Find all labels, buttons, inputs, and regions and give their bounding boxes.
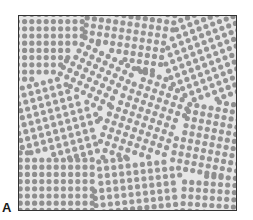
particle (182, 187, 187, 192)
particle (70, 110, 75, 115)
particle (35, 148, 40, 153)
particle (211, 135, 216, 140)
particle-lattice (19, 16, 237, 211)
particle (226, 131, 231, 136)
particle (190, 29, 195, 34)
particle (22, 69, 27, 74)
particle (41, 140, 46, 145)
particle (22, 48, 27, 53)
particle (69, 133, 74, 138)
particle (155, 150, 160, 155)
particle (172, 188, 177, 193)
particle (195, 42, 200, 47)
particle (73, 55, 78, 60)
particle (93, 48, 98, 53)
particle (122, 70, 127, 75)
particle (107, 194, 112, 199)
particle (139, 107, 144, 112)
particle (143, 138, 148, 143)
particle (177, 158, 182, 163)
particle (110, 41, 115, 46)
particle (225, 182, 230, 187)
particle (39, 186, 44, 191)
particle (121, 193, 126, 198)
particle (72, 19, 77, 24)
particle (203, 85, 208, 90)
particle (25, 150, 30, 155)
particle (92, 189, 97, 194)
particle (175, 73, 180, 78)
particle (36, 55, 41, 60)
particle (184, 77, 189, 82)
particle (213, 165, 218, 170)
particle (207, 113, 212, 118)
particle (141, 77, 146, 82)
particle (129, 88, 134, 93)
particle (65, 19, 70, 24)
particle (218, 182, 223, 187)
particle (58, 91, 63, 96)
particle (227, 167, 232, 172)
particle (51, 122, 56, 127)
particle (36, 26, 41, 31)
particle (56, 84, 61, 89)
particle (209, 203, 214, 208)
particle (141, 176, 146, 181)
particle (51, 26, 56, 31)
particle (101, 202, 106, 207)
particle (44, 16, 49, 17)
particle (74, 94, 79, 99)
particle (39, 208, 44, 211)
particle (123, 207, 128, 211)
particle (191, 74, 196, 79)
particle (125, 125, 130, 130)
particle (36, 89, 41, 94)
particle (206, 53, 211, 58)
particle (131, 51, 136, 56)
particle (116, 83, 121, 88)
particle (58, 41, 63, 46)
particle (93, 203, 98, 208)
particle (134, 177, 139, 182)
particle (51, 48, 56, 53)
particle (110, 96, 115, 101)
particle (89, 38, 94, 43)
particle (166, 68, 171, 73)
particle (27, 143, 32, 148)
particle (98, 139, 103, 144)
particle (196, 180, 201, 185)
particle (102, 125, 107, 130)
particle (105, 25, 110, 30)
particle (173, 202, 178, 207)
particle (178, 79, 183, 84)
particle (194, 81, 199, 86)
particle (106, 180, 111, 185)
particle (206, 163, 211, 168)
particle (75, 208, 80, 211)
particle (90, 127, 95, 132)
particle (191, 161, 196, 166)
particle (206, 31, 211, 36)
particle (120, 20, 125, 25)
particle (135, 22, 140, 27)
particle (109, 150, 114, 155)
particle (20, 145, 25, 150)
particle (149, 175, 154, 180)
particle (103, 148, 108, 153)
particle (159, 136, 164, 141)
particle (19, 108, 23, 113)
particle (188, 45, 193, 50)
particle (157, 18, 162, 23)
particle (60, 98, 65, 103)
particle (143, 116, 148, 121)
particle (48, 108, 53, 113)
particle (79, 42, 84, 47)
particle (144, 198, 149, 203)
particle (109, 63, 114, 68)
particle (58, 16, 63, 17)
particle (211, 44, 216, 49)
particle (224, 197, 229, 202)
particle (25, 201, 30, 206)
particle (61, 186, 66, 191)
particle (216, 143, 221, 148)
